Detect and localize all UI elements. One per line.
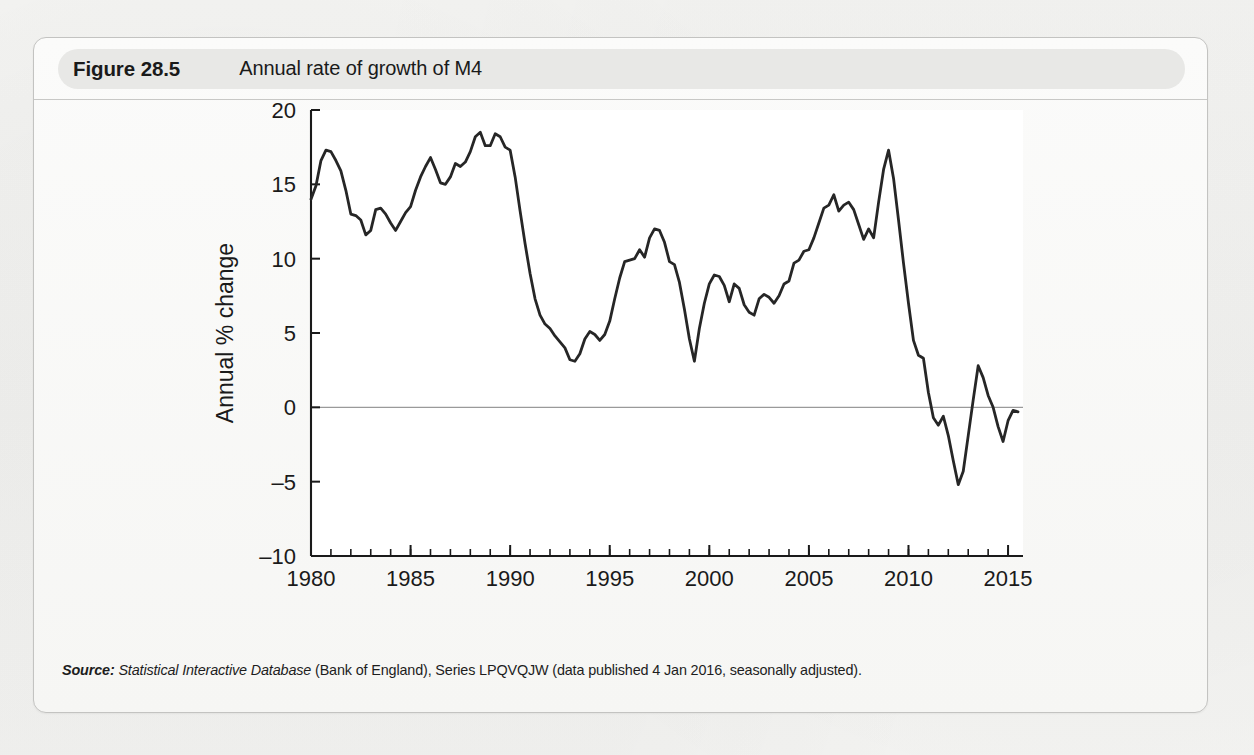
- y-tick-label: 5: [284, 321, 296, 346]
- x-axis-tick-labels: 19801985199019952000200520102015: [287, 566, 1033, 591]
- x-tick-label: 1980: [287, 566, 336, 591]
- x-tick-label: 2015: [984, 566, 1033, 591]
- figure-header-pill: [58, 49, 1185, 89]
- figure-number: Figure 28.5: [73, 57, 180, 81]
- y-tick-label: –5: [272, 470, 296, 495]
- plot-canvas: [311, 110, 1023, 556]
- x-tick-label: 1995: [585, 566, 634, 591]
- source-label: Source:: [62, 662, 115, 678]
- x-tick-label: 2010: [884, 566, 933, 591]
- figure-frame: Figure 28.5 Annual rate of growth of M4 …: [33, 37, 1208, 713]
- y-tick-label: 0: [284, 395, 296, 420]
- figure-header: Figure 28.5 Annual rate of growth of M4: [34, 38, 1207, 100]
- y-tick-label: 20: [272, 100, 296, 123]
- x-tick-label: 2000: [685, 566, 734, 591]
- line-chart: 20151050–5–10 19801985199019952000200520…: [34, 100, 1209, 660]
- source-database: Statistical Interactive Database: [118, 662, 311, 678]
- y-axis-tick-labels: 20151050–5–10: [259, 100, 296, 569]
- x-tick-label: 1985: [386, 566, 435, 591]
- chart-plot-area: 20151050–5–10 19801985199019952000200520…: [34, 100, 1207, 660]
- y-tick-label: 10: [272, 247, 296, 272]
- x-tick-label: 2005: [784, 566, 833, 591]
- y-axis-label: Annual % change: [212, 243, 238, 423]
- x-tick-label: 1990: [486, 566, 535, 591]
- page-title: Annual rate of growth of M4: [239, 57, 482, 80]
- y-tick-label: 15: [272, 172, 296, 197]
- source-rest: (Bank of England), Series LPQVQJW (data …: [315, 662, 862, 678]
- source-note: Source: Statistical Interactive Database…: [62, 662, 862, 678]
